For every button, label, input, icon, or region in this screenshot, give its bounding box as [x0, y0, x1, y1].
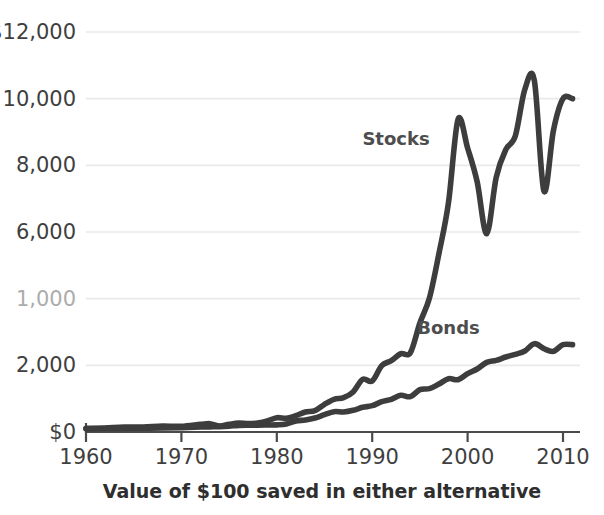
x-tick-label: 2010 [536, 445, 589, 469]
chart-container: $12,00010,0008,0006,0001,0002,000$0 1960… [0, 0, 604, 515]
y-tick-label: $0 [49, 420, 76, 444]
y-tick-label: 6,000 [16, 220, 76, 244]
x-axis-labels: 196019701980199020002010 [59, 445, 589, 469]
x-tick-label: 1980 [250, 445, 303, 469]
data-series [86, 73, 573, 428]
series-annotation-bonds: Bonds [417, 317, 480, 338]
series-annotation-stocks: Stocks [362, 128, 429, 149]
x-tick-label: 1960 [59, 445, 112, 469]
series-line-bonds [86, 344, 573, 429]
gridlines [86, 32, 580, 365]
x-tick-label: 1970 [155, 445, 208, 469]
chart-caption: Value of $100 saved in either alternativ… [103, 480, 542, 502]
y-axis-labels: $12,00010,0008,0006,0001,0002,000$0 [0, 20, 76, 444]
y-tick-label: 8,000 [16, 153, 76, 177]
y-tick-label: 10,000 [3, 87, 76, 111]
y-tick-label: 2,000 [16, 353, 76, 377]
line-chart: $12,00010,0008,0006,0001,0002,000$0 1960… [0, 0, 604, 515]
series-line-stocks [86, 73, 573, 428]
series-annotations: StocksBonds [362, 128, 479, 337]
x-tick-label: 1990 [345, 445, 398, 469]
y-tick-label: 1,000 [16, 287, 76, 311]
x-tick-label: 2000 [441, 445, 494, 469]
y-tick-label: $12,000 [0, 20, 76, 44]
